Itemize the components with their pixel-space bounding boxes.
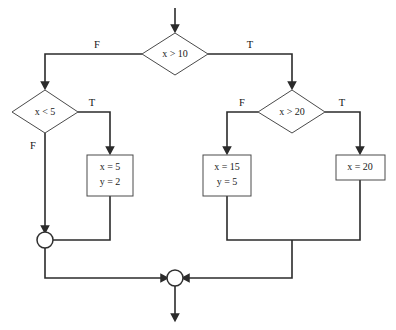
connector-process-left-to-merge	[53, 196, 110, 240]
connector-left-true	[78, 112, 110, 153]
edge-label-left-true: T	[89, 97, 96, 108]
process-x20-line1: x = 20	[347, 161, 373, 172]
merge-node-left[interactable]	[37, 232, 53, 248]
process-x5-y2-line2: y = 2	[100, 176, 121, 187]
connector-process-mid-to-join	[227, 196, 292, 240]
edge-label-left-false: F	[30, 140, 36, 151]
flowchart-canvas: x > 10 x < 5 x > 20 x = 5 y = 2 x = 15 y…	[0, 0, 396, 330]
process-x5-y2-line1: x = 5	[100, 161, 121, 172]
process-x15-y5-line1: x = 15	[214, 161, 240, 172]
flowchart-svg: x > 10 x < 5 x > 20 x = 5 y = 2 x = 15 y…	[0, 0, 396, 330]
process-x15-y5-line2: y = 5	[217, 176, 238, 187]
connector-join-to-bottom-merge	[183, 240, 292, 278]
edge-label-right-false: F	[239, 97, 245, 108]
merge-node-bottom[interactable]	[167, 270, 183, 286]
connector-right-true	[325, 112, 360, 153]
decision-x-gt-20-label: x > 20	[279, 106, 305, 117]
connector-merge-left-to-bottom	[45, 248, 167, 278]
decision-x-lt-5-label: x < 5	[35, 106, 56, 117]
edge-label-right-true: T	[339, 97, 346, 108]
edge-label-top-false: F	[94, 39, 100, 50]
connector-right-false	[227, 112, 258, 153]
connector-top-false	[45, 54, 142, 88]
connector-process-right-to-join	[292, 180, 360, 240]
connector-top-true	[208, 54, 292, 88]
edge-label-top-true: T	[247, 39, 254, 50]
decision-x-gt-10-label: x > 10	[162, 48, 188, 59]
